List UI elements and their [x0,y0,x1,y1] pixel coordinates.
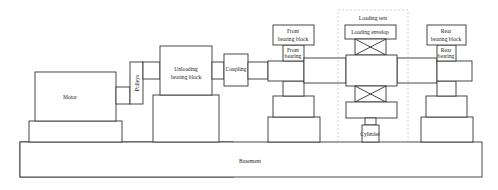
main-shaft-left [304,58,346,83]
motor-label: Motor [63,94,77,100]
motor-shaft [116,87,130,104]
front-bearing-block-label-1: Front [287,28,300,34]
rear-support-mid [426,96,467,117]
pulleys-label: Pulleys [134,75,140,91]
pulley-shaft [143,62,160,79]
rear-bearing-block-label-2: bearing block [431,36,462,42]
test-rig-diagram: Basement Motor Pulleys Unloading bearing… [0,0,498,190]
front-support-post [283,81,304,96]
front-support-base [268,117,320,142]
motor-base [29,121,122,142]
front-bearing-label-2: bearing [285,53,302,59]
basement-label: Basement [239,158,262,164]
unloading-bearing-block-label-2: bearing block [171,74,202,80]
loading-plate [346,102,397,118]
coupling-shaft [248,62,268,79]
rear-bearing-block-label-1: Rear [441,28,452,34]
front-bearing-housing [268,61,304,81]
cylinder-rod [365,118,376,125]
unloading-bearing-block-label-1: Unloading [174,66,198,72]
unloading-block-base [153,95,219,142]
loading-envelop-label: Loading envelop [351,29,389,35]
rear-support-post [437,81,456,96]
loading-sets-label: Loading sets [359,15,387,21]
unloading-shaft [212,62,224,79]
loading-block [346,55,397,86]
rear-bearing-label-2: bearing [438,53,455,59]
front-bearing-block-label-2: bearing block [278,36,309,42]
rear-bearing-housing [437,61,472,81]
front-support-mid [273,96,314,117]
cylinder-label: Cylinder [360,131,380,137]
coupling-label: Coupling [226,66,247,72]
rear-support-base [421,117,473,142]
main-shaft-right [397,58,437,83]
